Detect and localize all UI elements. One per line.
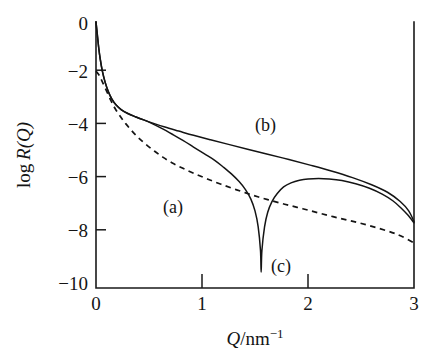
x-tick-label-0: 0 [91, 293, 101, 314]
y-axis-title-symbol: R [13, 148, 34, 161]
y-tick-label--4: −4 [68, 114, 89, 135]
curve-a-dashed [96, 71, 414, 243]
x-axis-title-symbol: Q [226, 328, 240, 349]
svg-text:Q/nm−1: Q/nm−1 [226, 326, 283, 349]
x-tick-label-2: 2 [303, 293, 313, 314]
plot-frame [96, 22, 414, 288]
y-axis-title-log: log [13, 160, 34, 188]
annotation-b: (b) [255, 115, 276, 136]
x-axis-title: Q/nm−1 [226, 326, 283, 349]
y-axis-ticks [96, 70, 106, 230]
y-tick-label--6: −6 [68, 167, 88, 188]
annotation-c: (c) [271, 256, 291, 277]
x-axis-title-exponent: −1 [270, 326, 284, 341]
y-tick-label--8: −8 [68, 220, 88, 241]
y-tick-labels: 0 −2 −4 −6 −8 −10 [58, 13, 88, 295]
y-tick-label--2: −2 [68, 61, 88, 82]
x-tick-label-3: 3 [409, 293, 419, 314]
x-axis-ticks [202, 274, 308, 288]
y-tick-label--10: −10 [58, 273, 88, 294]
y-axis-title: log R(Q) [13, 122, 35, 188]
data-curves [96, 22, 414, 272]
annotation-a: (a) [163, 197, 183, 218]
reflectivity-figure: 0 −2 −4 −6 −8 −10 0 1 2 3 (a) (b) (c) Q/… [0, 0, 434, 359]
svg-text:log R(Q): log R(Q) [13, 122, 35, 188]
y-axis-title-argument: (Q) [13, 122, 35, 148]
x-tick-label-1: 1 [197, 293, 207, 314]
plot-canvas: 0 −2 −4 −6 −8 −10 0 1 2 3 (a) (b) (c) Q/… [0, 0, 434, 359]
x-axis-title-unit: /nm [240, 328, 270, 349]
x-tick-labels: 0 1 2 3 [91, 293, 419, 314]
axis-frame-path [96, 22, 414, 288]
y-tick-label-0: 0 [79, 13, 89, 34]
curve-c-solid [96, 22, 414, 272]
